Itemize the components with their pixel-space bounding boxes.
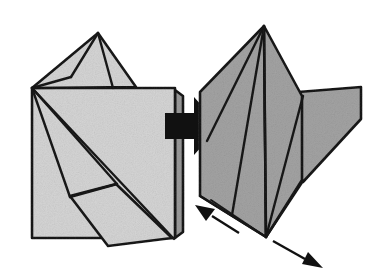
- motion-arrow-lower-right-shaft: [273, 241, 305, 259]
- motion-arrow-lower-right-head: [302, 252, 323, 268]
- origami-diagram-figure: Origami folding step diagram Two paper m…: [0, 0, 385, 275]
- origami-diagram-canvas: [0, 0, 385, 275]
- left-model-top-flap: [32, 33, 136, 88]
- motion-arrow-upper-left-head: [195, 205, 215, 221]
- left-model-group: [32, 33, 183, 246]
- motion-arrow-lower-right-group: [273, 241, 323, 268]
- right-model-right-wing: [264, 26, 302, 237]
- right-model-group: [200, 26, 361, 237]
